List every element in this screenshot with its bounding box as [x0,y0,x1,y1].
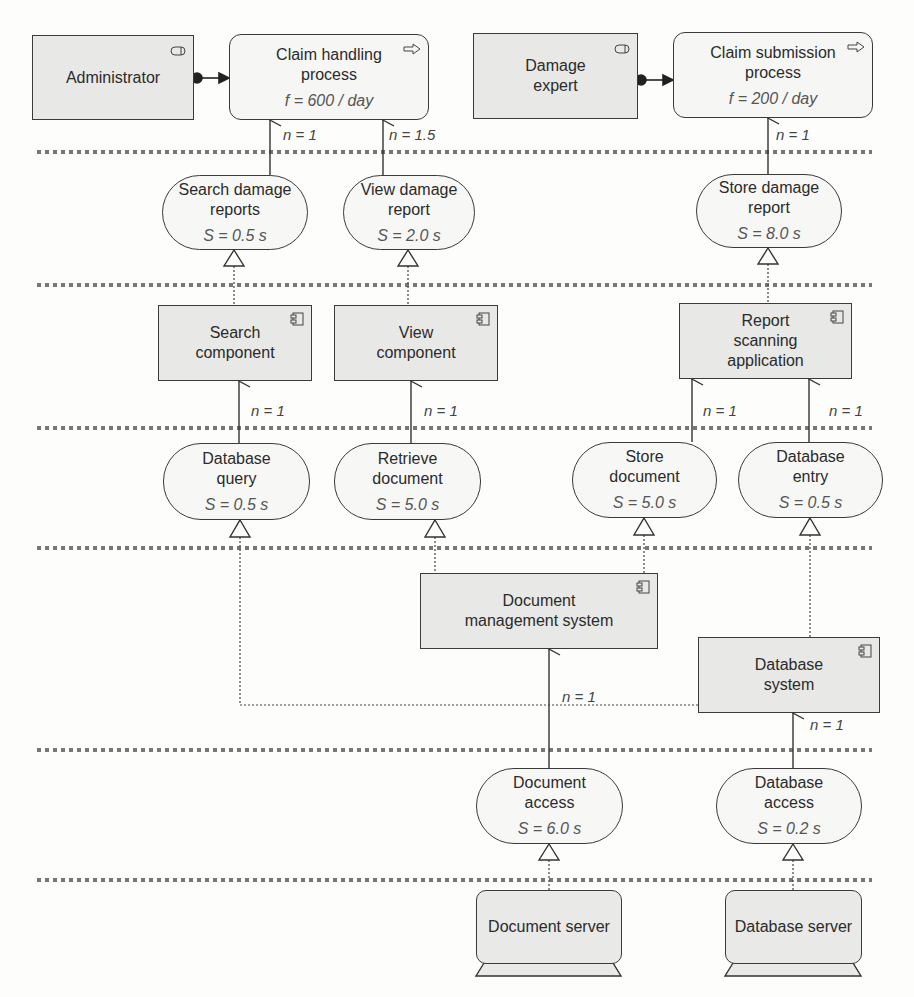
service-search-damage-reports[interactable]: Search damage reports S = 0.5 s [162,175,308,250]
service-store-damage-report[interactable]: Store damage report S = 8.0 s [696,174,842,248]
component-view[interactable]: View component [334,305,498,381]
service-database-access[interactable]: Database access S = 0.2 s [716,768,862,844]
frequency-metric: f = 200 / day [674,89,872,109]
service-time-metric: S = 5.0 s [376,495,440,515]
actor-administrator[interactable]: Administrator [32,35,194,120]
service-view-damage-report[interactable]: View damage report S = 2.0 s [343,175,475,250]
component-label-line2: component [195,343,274,363]
service-retrieve-document[interactable]: Retrieve document S = 5.0 s [334,443,481,520]
component-icon [476,311,490,331]
system-label-line2: system [764,675,815,695]
edge-label: n = 1 [703,402,737,419]
actor-label-line1: Damage [525,56,585,76]
frequency-metric: f = 600 / day [230,91,428,111]
component-icon [636,579,650,599]
process-claim-submission[interactable]: Claim submission process f = 200 / day [673,32,873,118]
system-label-line1: Database [755,655,824,675]
process-label-line1: Claim submission [710,43,835,63]
edge-label: n = 1.5 [389,126,435,143]
service-label-line2: document [372,469,442,489]
service-time-metric: S = 6.0 s [518,819,582,839]
edge-label: n = 1 [251,402,285,419]
process-arrow-icon [847,38,865,58]
service-label-line1: Store damage [719,178,820,198]
component-search[interactable]: Search component [158,305,312,381]
component-label-line1: View [399,323,433,343]
service-label-line2: reports [210,200,260,220]
actor-label-line2: expert [533,76,577,96]
service-time-metric: S = 2.0 s [377,226,441,246]
device-label: Database server [735,917,852,937]
component-icon [830,309,844,329]
system-label-line2: management system [465,611,614,631]
component-icon [858,643,872,663]
service-document-access[interactable]: Document access S = 6.0 s [476,768,623,844]
actor-damage-expert[interactable]: Damage expert [473,33,638,119]
system-document-management[interactable]: Document management system [420,573,658,649]
service-label-line2: query [216,469,256,489]
service-time-metric: S = 8.0 s [737,224,801,244]
service-label-line1: View damage [361,180,458,200]
edge-label: n = 1 [424,402,458,419]
process-label-line1: Claim handling [276,45,382,65]
service-label-line1: Database [202,449,271,469]
component-icon [290,311,304,331]
edge-label: n = 1 [829,402,863,419]
service-label-line1: Search damage [179,180,292,200]
service-database-entry[interactable]: Database entry S = 0.5 s [738,442,883,518]
actor-role-icon [170,41,186,61]
system-label-line1: Document [503,591,576,611]
service-label-line2: report [388,200,430,220]
service-time-metric: S = 0.2 s [757,819,821,839]
component-label-line1: Search [210,323,261,343]
edge-label: n = 1 [562,688,596,705]
system-database[interactable]: Database system [698,637,880,713]
service-label-line1: Database [776,447,845,467]
component-label-line2: component [376,343,455,363]
service-time-metric: S = 0.5 s [779,493,843,513]
device-bases [476,963,861,976]
service-label-line1: Document [513,773,586,793]
component-label-line1: Report [741,311,789,331]
actor-label: Administrator [66,68,160,88]
component-label-line3: application [727,351,804,371]
service-time-metric: S = 0.5 s [203,226,267,246]
service-label-line1: Retrieve [378,449,438,469]
device-database-server[interactable]: Database server [725,890,862,964]
actor-role-icon [614,39,630,59]
service-label-line2: access [525,793,575,813]
process-label-line2: process [745,63,801,83]
service-label-line2: report [748,198,790,218]
service-database-query[interactable]: Database query S = 0.5 s [163,443,310,520]
process-claim-handling[interactable]: Claim handling process f = 600 / day [229,34,429,120]
service-time-metric: S = 5.0 s [613,493,677,513]
service-time-metric: S = 0.5 s [205,495,269,515]
device-label: Document server [488,917,610,937]
device-document-server[interactable]: Document server [476,890,622,964]
process-label-line2: process [301,65,357,85]
edge-label: n = 1 [283,126,317,143]
process-arrow-icon [403,40,421,60]
edge-label: n = 1 [810,716,844,733]
edge-label: n = 1 [776,126,810,143]
component-label-line2: scanning [733,331,797,351]
service-label-line2: entry [793,467,829,487]
service-label-line2: access [764,793,814,813]
service-label-line2: document [609,467,679,487]
service-label-line1: Database [755,773,824,793]
service-label-line1: Store [625,447,663,467]
component-report-scanning[interactable]: Report scanning application [679,303,852,379]
service-store-document[interactable]: Store document S = 5.0 s [572,442,717,518]
